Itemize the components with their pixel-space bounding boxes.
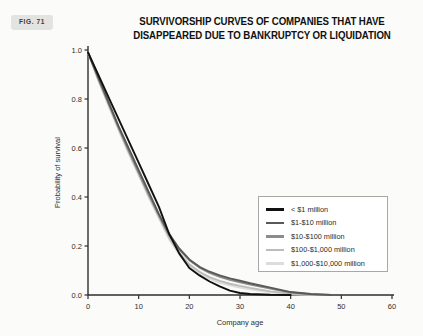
x-axis-title: Company age (217, 318, 264, 327)
legend-label: $1-$10 million (291, 219, 336, 226)
legend-item: $100-$1,000 million (259, 243, 387, 256)
legend-item: $1-$10 million (259, 216, 387, 229)
x-tick-label: 40 (286, 302, 294, 311)
y-tick-label: 1.0 (72, 46, 82, 55)
survivorship-chart: 0.00.20.40.60.81.00102030405060Company a… (0, 0, 423, 336)
legend-label: $100-$1,000 million (291, 246, 355, 253)
legend-list: < $1 million$1-$10 million$10-$100 milli… (259, 197, 387, 271)
legend-item: $1,000-$10,000 million (259, 257, 387, 270)
y-tick-label: 0.0 (72, 291, 82, 300)
x-tick-label: 50 (337, 302, 345, 311)
legend-label: $10-$100 million (291, 233, 345, 240)
legend-swatch (266, 222, 284, 225)
legend-item: $10-$100 million (259, 230, 387, 243)
y-tick-label: 0.2 (72, 242, 82, 251)
y-axis-title: Probability of survival (53, 137, 62, 208)
legend-swatch (266, 262, 284, 265)
legend-swatch (266, 249, 284, 252)
y-tick-label: 0.8 (72, 95, 82, 104)
x-tick-label: 0 (86, 302, 90, 311)
legend-item: < $1 million (259, 203, 387, 216)
x-tick-label: 20 (185, 302, 193, 311)
legend-swatch (266, 208, 284, 211)
x-tick-label: 30 (236, 302, 244, 311)
y-tick-label: 0.4 (72, 193, 82, 202)
legend-label: < $1 million (291, 206, 328, 213)
chart-legend: < $1 million$1-$10 million$10-$100 milli… (258, 196, 388, 272)
x-tick-label: 60 (388, 302, 396, 311)
chart-svg: 0.00.20.40.60.81.00102030405060Company a… (0, 0, 423, 336)
y-tick-label: 0.6 (72, 144, 82, 153)
x-tick-label: 10 (134, 302, 142, 311)
legend-swatch (266, 235, 284, 238)
legend-label: $1,000-$10,000 million (291, 260, 365, 267)
